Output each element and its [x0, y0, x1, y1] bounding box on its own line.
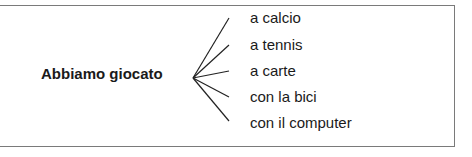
branch-lines: [0, 0, 472, 157]
branch-line: [193, 71, 229, 78]
branch-item: con la bici: [250, 88, 317, 105]
branch-line: [193, 78, 229, 121]
branch-line: [193, 45, 229, 78]
branch-item: a calcio: [250, 9, 301, 26]
branch-line: [193, 78, 229, 97]
branch-item: a carte: [250, 62, 296, 79]
branch-line: [193, 18, 229, 78]
branch-item: a tennis: [250, 36, 303, 53]
branch-item: con il computer: [250, 114, 352, 131]
